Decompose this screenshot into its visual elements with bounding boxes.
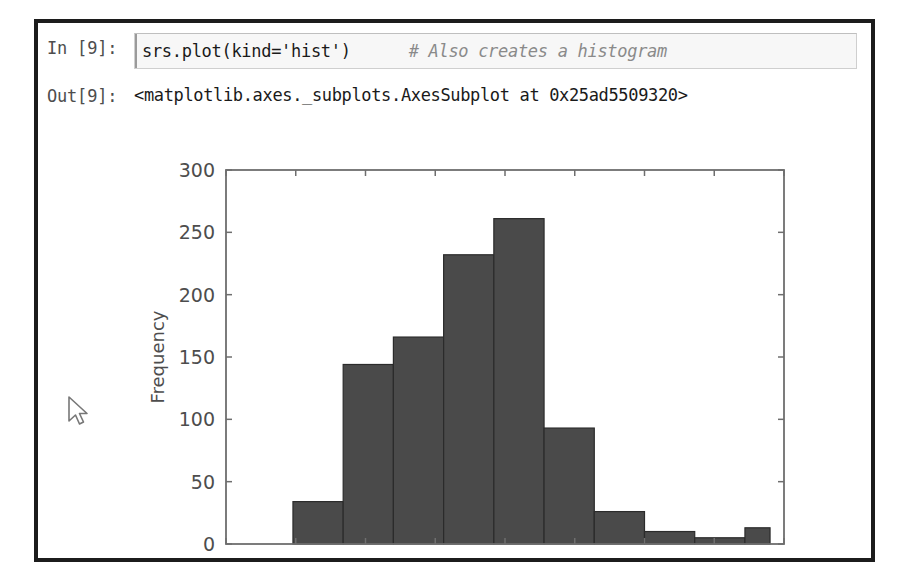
y-tick-label: 150 — [179, 346, 215, 368]
x-tick-label: 0 — [359, 550, 371, 553]
y-tick-label: 100 — [179, 408, 215, 430]
histogram-bar — [494, 219, 544, 544]
output-cell: Out[9]: <matplotlib.axes._subplots.AxesS… — [38, 81, 871, 115]
histogram-bar — [745, 528, 770, 544]
code-comment: # Also creates a histogram — [409, 41, 667, 61]
histogram-figure: -10-5051015202530050100150200250300Frequ… — [38, 123, 871, 553]
output-prompt-label: Out[9]: — [38, 81, 134, 111]
histogram-svg: -10-5051015202530050100150200250300Frequ… — [38, 123, 879, 553]
y-tick-label: 200 — [179, 284, 215, 306]
y-tick-label: 0 — [203, 533, 215, 553]
input-prompt-label: In [9]: — [38, 33, 134, 63]
code-source: srs.plot(kind='hist') — [142, 41, 351, 61]
histogram-bar — [393, 337, 443, 544]
histogram-bar — [645, 532, 695, 544]
histogram-bar — [695, 538, 745, 544]
histogram-bar — [343, 364, 393, 544]
y-tick-label: 250 — [179, 221, 215, 243]
x-tick-label: -10 — [210, 550, 241, 553]
x-tick-label: 10 — [493, 550, 517, 553]
input-cell[interactable]: In [9]: srs.plot(kind='hist') # Also cre… — [38, 33, 871, 75]
notebook-output-frame: In [9]: srs.plot(kind='hist') # Also cre… — [34, 19, 875, 562]
x-tick-label: 30 — [772, 550, 796, 553]
y-axis-title: Frequency — [147, 310, 168, 403]
x-tick-label: 25 — [702, 550, 726, 553]
histogram-bar — [594, 512, 644, 544]
output-repr-text: <matplotlib.axes._subplots.AxesSubplot a… — [134, 81, 871, 109]
y-tick-label: 50 — [191, 471, 215, 493]
histogram-bar — [293, 502, 343, 544]
x-tick-label: 20 — [632, 550, 656, 553]
histogram-bar — [444, 255, 494, 544]
x-tick-label: 15 — [563, 550, 587, 553]
y-tick-label: 300 — [179, 159, 215, 181]
x-tick-label: -5 — [286, 550, 305, 553]
histogram-bar — [544, 428, 594, 544]
histogram-bars — [293, 219, 770, 544]
code-editor[interactable]: srs.plot(kind='hist') # Also creates a h… — [134, 33, 857, 69]
x-tick-label: 5 — [429, 550, 441, 553]
